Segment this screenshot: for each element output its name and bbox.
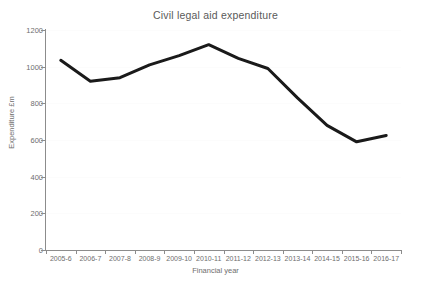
series-line-civil-legal-aid: [61, 45, 386, 142]
series-line-group: [0, 0, 431, 287]
chart-container: Civil legal aid expenditure 020040060080…: [0, 0, 431, 287]
